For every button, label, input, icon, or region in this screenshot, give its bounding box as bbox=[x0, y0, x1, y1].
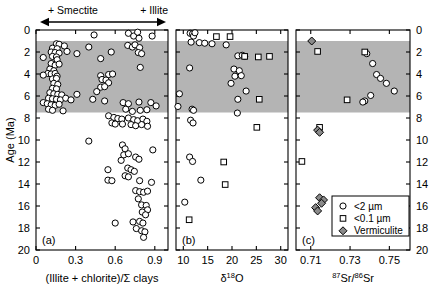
shaded-age-band bbox=[296, 41, 410, 113]
data-point-circle bbox=[105, 167, 111, 173]
y-tick-label-left: 10 bbox=[18, 134, 30, 146]
data-point-circle bbox=[198, 177, 204, 183]
x-tick-label: 30 bbox=[275, 254, 287, 266]
data-point-circle bbox=[86, 138, 92, 144]
legend: <2 µm<0.1 µmVermiculite bbox=[332, 196, 409, 236]
data-point-circle bbox=[137, 107, 143, 113]
data-point-circle bbox=[139, 51, 145, 57]
data-point-circle bbox=[228, 80, 234, 86]
data-point-circle bbox=[144, 188, 150, 194]
data-point-circle bbox=[56, 61, 62, 67]
data-point-circle bbox=[182, 199, 188, 205]
data-point-circle bbox=[135, 29, 141, 35]
data-point-circle bbox=[243, 88, 249, 94]
data-point-circle bbox=[142, 212, 148, 218]
data-point-circle bbox=[235, 96, 241, 102]
data-point-circle bbox=[176, 91, 182, 97]
panel-label: (a) bbox=[42, 234, 55, 246]
x-tick-label: 0.6 bbox=[108, 254, 123, 266]
data-point-circle bbox=[125, 151, 131, 157]
x-tick-label: 20 bbox=[226, 254, 238, 266]
data-point-circle bbox=[112, 220, 118, 226]
x-tick-label: 0.73 bbox=[339, 254, 360, 266]
data-point-circle bbox=[137, 64, 143, 70]
panel-label: (c) bbox=[302, 234, 315, 246]
data-point-circle bbox=[102, 84, 108, 90]
data-point-circle bbox=[109, 71, 115, 77]
panel-label: (b) bbox=[182, 234, 195, 246]
data-point-circle bbox=[102, 98, 108, 104]
data-point-circle bbox=[60, 108, 66, 114]
data-point-circle bbox=[149, 33, 155, 39]
data-point-square bbox=[186, 217, 192, 223]
y-tick-label-right: 14 bbox=[416, 178, 428, 190]
data-point-circle bbox=[40, 72, 46, 78]
data-point-circle bbox=[139, 122, 145, 128]
legend-label: <2 µm bbox=[354, 201, 382, 212]
data-point-circle bbox=[368, 92, 374, 98]
data-point-circle bbox=[190, 120, 196, 126]
data-point-square bbox=[256, 54, 262, 60]
data-point-circle bbox=[137, 178, 143, 184]
y-tick-label-left: 2 bbox=[24, 46, 30, 58]
data-point-circle bbox=[370, 60, 376, 66]
data-point-circle bbox=[112, 121, 118, 127]
data-point-circle bbox=[360, 99, 366, 105]
data-point-circle bbox=[144, 123, 150, 129]
x-tick-label: 0.9 bbox=[147, 254, 162, 266]
data-point-circle bbox=[153, 103, 159, 109]
data-point-circle bbox=[40, 54, 46, 60]
multi-panel-scatter-figure: 00.30.60.9(a)02468101214161820Age (Ma) 1… bbox=[0, 0, 445, 293]
data-point-circle bbox=[130, 219, 136, 225]
data-point-circle bbox=[90, 96, 96, 102]
data-point-square bbox=[267, 54, 273, 60]
x-tick-label: 0.75 bbox=[379, 254, 400, 266]
legend-label: Vermiculite bbox=[354, 225, 403, 236]
data-point-circle bbox=[56, 101, 62, 107]
data-point-circle bbox=[144, 107, 150, 113]
data-point-circle bbox=[133, 123, 139, 129]
figure-container: 00.30.60.9(a)02468101214161820Age (Ma) 1… bbox=[0, 0, 445, 293]
data-point-circle bbox=[109, 178, 115, 184]
data-point-square bbox=[227, 34, 233, 40]
y-tick-label-left: 8 bbox=[24, 112, 30, 124]
data-point-circle bbox=[136, 35, 142, 41]
x-tick-label: 0.3 bbox=[68, 254, 83, 266]
data-point-circle bbox=[86, 44, 92, 50]
x-tick-label: 0.71 bbox=[300, 254, 321, 266]
data-point-circle bbox=[135, 196, 141, 202]
y-tick-label-left: 18 bbox=[18, 222, 30, 234]
data-point-circle bbox=[108, 49, 114, 55]
data-point-square bbox=[221, 159, 227, 165]
data-point-circle bbox=[136, 156, 142, 162]
data-point-circle bbox=[123, 106, 129, 112]
data-point-circle bbox=[377, 75, 383, 81]
data-point-circle bbox=[223, 42, 229, 48]
y-axis-title: Age (Ma) bbox=[4, 117, 16, 162]
data-point-circle bbox=[187, 65, 193, 71]
x-tick-label: 25 bbox=[250, 254, 262, 266]
data-point-circle bbox=[340, 203, 346, 209]
data-point-circle bbox=[98, 56, 104, 62]
data-point-square bbox=[344, 97, 350, 103]
y-tick-label-right: 10 bbox=[416, 134, 428, 146]
legend-label: <0.1 µm bbox=[354, 213, 391, 224]
data-point-circle bbox=[49, 107, 55, 113]
data-point-circle bbox=[238, 73, 244, 79]
data-point-circle bbox=[140, 220, 146, 226]
y-tick-label-left: 6 bbox=[24, 90, 30, 102]
data-point-circle bbox=[68, 97, 74, 103]
data-point-circle bbox=[94, 89, 100, 95]
data-point-circle bbox=[189, 158, 195, 164]
y-tick-label-right: 8 bbox=[416, 112, 422, 124]
y-tick-label-left: 4 bbox=[24, 68, 30, 80]
data-point-square bbox=[242, 54, 248, 60]
data-point-circle bbox=[118, 157, 124, 163]
y-tick-label-left: 12 bbox=[18, 156, 30, 168]
data-point-circle bbox=[175, 103, 181, 109]
x-tick-label: 0 bbox=[33, 254, 39, 266]
data-point-square bbox=[340, 216, 346, 222]
y-tick-label-left: 16 bbox=[18, 200, 30, 212]
data-point-square bbox=[222, 182, 228, 188]
data-point-circle bbox=[383, 80, 389, 86]
